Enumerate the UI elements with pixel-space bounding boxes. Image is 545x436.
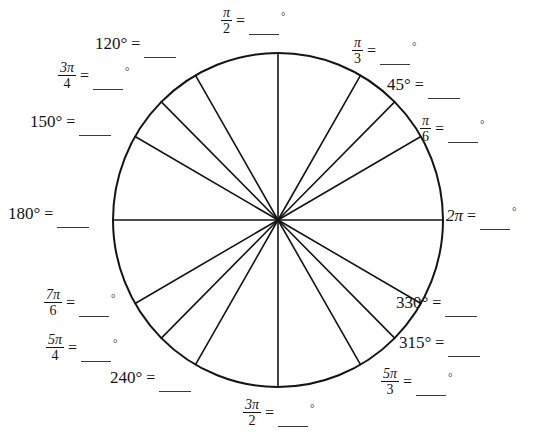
label-pi-over-2: π 2 = ° [221, 6, 283, 37]
label-pi-over-6: π 6 = ° [420, 114, 482, 145]
spoke-lines-group [113, 53, 443, 387]
spoke-315-degrees [278, 220, 395, 338]
answer-slot[interactable]: ° [278, 406, 312, 420]
fraction-numerator: π [221, 6, 232, 21]
fraction-numerator: 7π [44, 288, 62, 303]
label-315-degrees: 315° = [399, 334, 480, 351]
equals-sign: = [434, 335, 445, 351]
answer-slot[interactable]: ° [79, 296, 113, 310]
answer-slot[interactable] [79, 115, 111, 129]
angle-term: 120° [95, 35, 127, 52]
fraction-denominator: 4 [62, 76, 73, 91]
equals-sign: = [466, 208, 477, 224]
answer-slot[interactable] [428, 78, 460, 92]
label-3pi-over-4: 3π 4 = ° [58, 61, 127, 92]
label-240-degrees: 240° = [110, 369, 191, 386]
answer-slot[interactable]: ° [93, 69, 127, 83]
angle-term: 150° [30, 113, 62, 130]
label-45-degrees: 45° = [387, 76, 460, 93]
spoke-60-degrees [278, 75, 361, 220]
degree-symbol: ° [125, 66, 129, 77]
fraction-numerator: 5π [46, 333, 64, 348]
spoke-120-degrees [196, 75, 279, 220]
answer-slot[interactable] [445, 296, 477, 310]
answer-blank[interactable] [159, 378, 191, 392]
answer-slot[interactable]: ° [448, 122, 482, 136]
label-5pi-over-3: 5π 3 = ° [381, 367, 450, 398]
answer-blank[interactable] [416, 382, 446, 396]
equals-sign: = [235, 13, 246, 29]
label-3pi-over-2: 3π 2 = ° [243, 398, 312, 429]
fraction-3pi-over-4: 3π 4 [58, 61, 76, 92]
spoke-330-degrees [278, 220, 421, 304]
unit-circle-worksheet: π 2 = ° 120° = 3π 4 = [0, 0, 545, 436]
fraction-denominator: 2 [221, 21, 232, 36]
spoke-225-degrees [161, 220, 278, 338]
answer-blank[interactable] [480, 216, 510, 230]
label-150-degrees: 150° = [30, 113, 111, 130]
answer-blank[interactable] [93, 76, 123, 90]
degree-symbol: ° [412, 41, 416, 52]
fraction-denominator: 6 [420, 129, 431, 144]
answer-slot[interactable]: ° [380, 44, 414, 58]
spoke-30-degrees [278, 137, 421, 221]
answer-blank[interactable] [81, 348, 111, 362]
answer-blank[interactable] [278, 413, 308, 427]
answer-blank[interactable] [448, 129, 478, 143]
answer-blank[interactable] [448, 343, 480, 357]
answer-blank[interactable] [380, 51, 410, 65]
angle-term: 2π [446, 207, 463, 224]
degree-symbol: ° [512, 206, 516, 217]
spoke-210-degrees [135, 220, 278, 304]
answer-slot[interactable] [144, 37, 176, 51]
degree-symbol: ° [281, 11, 285, 22]
label-330-degrees: 330° = [396, 294, 477, 311]
equals-sign: = [65, 114, 76, 130]
fraction-denominator: 3 [352, 51, 363, 66]
answer-slot[interactable] [159, 371, 191, 385]
degree-symbol: ° [310, 403, 314, 414]
label-180-degrees: 180° = [8, 205, 89, 222]
equals-sign: = [145, 370, 156, 386]
equals-sign: = [402, 374, 413, 390]
fraction-numerator: 3π [243, 398, 261, 413]
answer-slot[interactable]: ° [81, 341, 115, 355]
spoke-240-degrees [196, 220, 279, 365]
equals-sign: = [431, 295, 442, 311]
fraction-denominator: 6 [48, 303, 59, 318]
fraction-7pi-over-6: 7π 6 [44, 288, 62, 319]
label-5pi-over-4: 5π 4 = ° [46, 333, 115, 364]
fraction-numerator: 5π [381, 367, 399, 382]
angle-term: 45° [387, 76, 411, 93]
degree-symbol: ° [448, 372, 452, 383]
degree-symbol: ° [480, 119, 484, 130]
answer-slot[interactable]: ° [480, 209, 514, 223]
equals-sign: = [366, 43, 377, 59]
answer-blank[interactable] [428, 85, 460, 99]
fraction-denominator: 2 [247, 413, 258, 428]
answer-slot[interactable] [448, 336, 480, 350]
answer-blank[interactable] [57, 214, 89, 228]
answer-blank[interactable] [445, 303, 477, 317]
answer-blank[interactable] [79, 122, 111, 136]
fraction-5pi-over-3: 5π 3 [381, 367, 399, 398]
label-2pi: 2π = ° [446, 207, 514, 224]
spoke-150-degrees [135, 137, 278, 221]
equals-sign: = [434, 121, 445, 137]
fraction-numerator: π [420, 114, 431, 129]
equals-sign: = [43, 206, 54, 222]
fraction-denominator: 3 [385, 382, 396, 397]
fraction-numerator: 3π [58, 61, 76, 76]
fraction-3pi-over-2: 3π 2 [243, 398, 261, 429]
spoke-45-degrees [278, 102, 395, 220]
equals-sign: = [264, 405, 275, 421]
degree-symbol: ° [111, 293, 115, 304]
equals-sign: = [67, 340, 78, 356]
answer-blank[interactable] [144, 44, 176, 58]
answer-slot[interactable]: ° [249, 14, 283, 28]
answer-blank[interactable] [249, 21, 279, 35]
answer-slot[interactable]: ° [416, 375, 450, 389]
equals-sign: = [130, 36, 141, 52]
answer-blank[interactable] [79, 303, 109, 317]
answer-slot[interactable] [57, 207, 89, 221]
